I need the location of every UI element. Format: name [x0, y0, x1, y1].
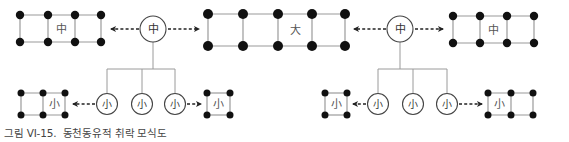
post-dot	[307, 9, 317, 19]
hub-small-right-1: 小	[403, 94, 424, 115]
grid-size-label: 大	[290, 23, 301, 37]
grid-small-left-a: 小	[18, 90, 69, 119]
post-dot	[71, 38, 79, 46]
post-dot	[16, 38, 24, 46]
hub-medium-left: 中	[140, 16, 166, 42]
post-dot	[307, 41, 317, 51]
post-dot	[97, 11, 105, 19]
post-dot	[18, 90, 25, 97]
grid-size-label: 小	[494, 98, 505, 111]
post-dot	[322, 90, 329, 97]
post-dot	[238, 41, 248, 51]
figure-title: 동천동유적 취락 모식도	[63, 127, 167, 139]
post-dot	[238, 9, 248, 19]
post-dot	[530, 39, 538, 47]
grid-size-label: 中	[488, 24, 499, 37]
post-dot	[476, 39, 484, 47]
hub-small-right-0: 小	[368, 94, 389, 115]
post-dot	[508, 90, 515, 97]
post-dot	[530, 12, 538, 20]
hub-small-right-2: 小	[437, 94, 458, 115]
post-dot	[485, 90, 492, 97]
grid-size-label: 小	[49, 98, 60, 111]
grid-medium-right: 中	[449, 12, 538, 47]
post-dot	[503, 12, 511, 20]
post-dot	[227, 112, 234, 119]
post-dot	[530, 90, 537, 97]
post-dot	[203, 41, 213, 51]
post-dot	[71, 11, 79, 19]
post-dot	[485, 112, 492, 119]
hierarchy-connector-right	[378, 42, 447, 93]
grid-small-left-b: 小	[204, 90, 234, 119]
grid-small-right-b: 小	[485, 90, 537, 119]
post-dot	[530, 112, 537, 119]
grid-large-center: 大	[203, 9, 350, 51]
post-dot	[340, 41, 350, 51]
hub-small-left-1: 小	[132, 94, 153, 115]
post-dot	[449, 12, 457, 20]
figure-number: 그림 VI-15.	[4, 127, 56, 139]
figure-caption: 그림 VI-15. 동천동유적 취락 모식도	[4, 125, 167, 140]
grid-medium-left: 中	[16, 11, 105, 46]
hub-size-label: 小	[170, 99, 180, 110]
grid-size-label: 小	[331, 98, 342, 111]
post-dot	[40, 112, 47, 119]
post-dot	[97, 38, 105, 46]
post-dot	[16, 11, 24, 19]
post-dot	[62, 90, 69, 97]
post-dot	[322, 112, 329, 119]
hub-size-label: 小	[137, 99, 147, 110]
post-dot	[476, 12, 484, 20]
hub-size-label: 小	[373, 99, 383, 110]
post-dot	[44, 38, 52, 46]
hub-medium-right: 中	[387, 16, 413, 42]
hierarchy-connector-left	[107, 42, 175, 93]
grid-size-label: 小	[213, 98, 224, 111]
settlement-grids: 中大中小小小小	[16, 9, 538, 119]
hub-size-label: 中	[395, 23, 406, 36]
post-dot	[344, 112, 351, 119]
post-dot	[18, 112, 25, 119]
post-dot	[449, 39, 457, 47]
post-dot	[40, 90, 47, 97]
post-dot	[344, 90, 351, 97]
post-dot	[508, 112, 515, 119]
hub-size-label: 小	[442, 99, 452, 110]
hub-small-left-0: 小	[97, 94, 118, 115]
post-dot	[503, 39, 511, 47]
hub-size-label: 小	[102, 99, 112, 110]
settlement-hubs: 中中小小小小小小	[97, 16, 458, 115]
post-dot	[204, 90, 211, 97]
post-dot	[204, 112, 211, 119]
settlement-diagram: 中大中小小小小 中中小小小小小小	[0, 0, 569, 142]
post-dot	[273, 9, 283, 19]
post-dot	[62, 112, 69, 119]
post-dot	[227, 90, 234, 97]
post-dot	[44, 11, 52, 19]
grid-small-right-a: 小	[322, 90, 351, 119]
post-dot	[340, 9, 350, 19]
hub-size-label: 小	[408, 99, 418, 110]
hub-small-left-2: 小	[165, 94, 186, 115]
post-dot	[203, 9, 213, 19]
post-dot	[273, 41, 283, 51]
hub-size-label: 中	[148, 23, 159, 36]
grid-size-label: 中	[56, 23, 67, 36]
